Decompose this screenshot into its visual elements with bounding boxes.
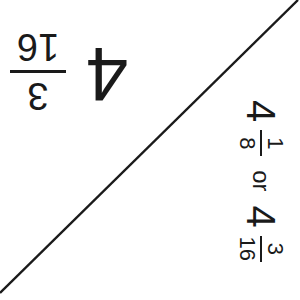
fraction-bar xyxy=(260,130,262,156)
upside-down-mixed-number: 4 3 16 xyxy=(8,18,133,118)
denominator: 16 xyxy=(10,27,66,67)
rotated-answer-text: 4 1 8 or 4 3 16 xyxy=(236,100,286,262)
first-whole: 4 xyxy=(241,100,281,122)
fraction-bar xyxy=(260,236,262,262)
connector-text: or xyxy=(247,170,275,191)
fraction-bar xyxy=(10,70,66,73)
second-denominator: 16 xyxy=(236,237,258,261)
second-numerator: 3 xyxy=(264,243,286,255)
first-numerator: 1 xyxy=(264,137,286,149)
first-fraction: 1 8 xyxy=(236,130,286,156)
first-denominator: 8 xyxy=(236,137,258,149)
numerator: 3 xyxy=(10,76,66,116)
second-whole: 4 xyxy=(241,206,281,228)
whole-number: 4 xyxy=(86,36,128,112)
fraction: 3 16 xyxy=(10,27,66,116)
second-fraction: 3 16 xyxy=(236,236,286,262)
